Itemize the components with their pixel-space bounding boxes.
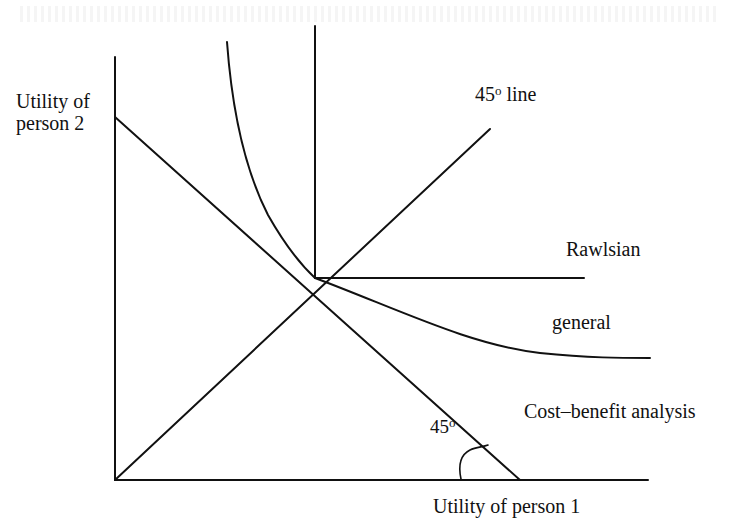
angle-degree-symbol: o (449, 415, 456, 430)
forty-five-line-num: 45 (475, 83, 495, 105)
general-label-text: general (552, 311, 611, 333)
rawlsian-label: Rawlsian (566, 238, 640, 260)
forty-five-line-label: 45o line (475, 83, 537, 105)
y-axis-label-line2: person 2 (16, 112, 90, 134)
cost-benefit-label-text: Cost–benefit analysis (524, 400, 696, 422)
y-axis-label-line1: Utility of (16, 90, 90, 112)
welfare-diagram (0, 0, 742, 526)
x-axis-label-text: Utility of person 1 (433, 495, 580, 517)
general-label: general (552, 311, 611, 333)
cost-benefit-label: Cost–benefit analysis (524, 400, 696, 422)
y-axis-label: Utility of person 2 (16, 90, 90, 134)
general-curve-upper (227, 42, 315, 278)
angle-arc (460, 445, 488, 479)
rawlsian-label-text: Rawlsian (566, 238, 640, 260)
cost-benefit-line (115, 117, 520, 480)
x-axis-label: Utility of person 1 (433, 495, 580, 517)
angle-num: 45 (430, 416, 449, 437)
angle-label: 45o (430, 416, 456, 438)
forty-five-line-word: line (502, 83, 537, 105)
